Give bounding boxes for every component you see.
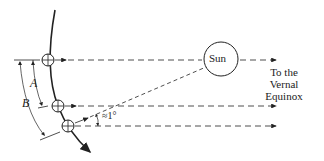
earth-position-1 (42, 54, 54, 66)
sun-label: Sun (209, 52, 226, 64)
earth-position-3 (62, 120, 74, 132)
earth-position-2 (52, 100, 64, 112)
arc-b-label: B (22, 96, 29, 111)
arc-a-label: A (30, 76, 37, 91)
vernal-equinox-label: To the Vernal Equinox (254, 66, 314, 102)
angle-label: ≈1° (102, 110, 117, 121)
